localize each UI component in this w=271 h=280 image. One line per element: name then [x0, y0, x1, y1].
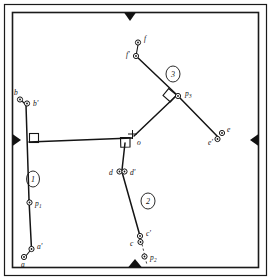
- frame-group: [5, 5, 267, 276]
- label-p2-sub: 2: [154, 257, 157, 263]
- link-2-group: [122, 143, 147, 265]
- joint-f-prime: [133, 53, 138, 58]
- figure-canvas: b b' a a' p 1 d d' c c' p 2 f f' e e' p …: [0, 0, 271, 280]
- bottom-marker-triangle-icon: [128, 259, 142, 268]
- link-badges-group: 1 2 3: [27, 66, 181, 209]
- horizontal-bar-group: [29, 138, 132, 142]
- label-e: e: [227, 125, 231, 134]
- label-p1-sub: 1: [39, 203, 42, 209]
- horizontal-connecting-bar: [29, 138, 132, 142]
- label-c-prime: c': [146, 229, 151, 238]
- label-a-prime: a': [37, 242, 43, 251]
- link-2-main-segment: [122, 172, 140, 236]
- joint-e-prime: [215, 136, 220, 141]
- label-b: b: [14, 88, 18, 97]
- joint-p2: [142, 254, 147, 259]
- label-o: o: [137, 138, 141, 147]
- joint-b-prime: [24, 101, 29, 106]
- joint-a-prime: [29, 246, 34, 251]
- link-1-lower-segment: [29, 200, 32, 249]
- label-c: c: [130, 239, 134, 248]
- point-labels-group: b b' a a' p 1 d d' c c' p 2 f f' e e' p …: [14, 34, 231, 269]
- joint-f: [135, 40, 140, 45]
- label-p3-sub: 3: [189, 93, 192, 99]
- label-d: d: [109, 168, 113, 177]
- joint-c: [138, 239, 143, 244]
- joint-b: [17, 97, 22, 102]
- linkage-diagram-svg: b b' a a' p 1 d d' c c' p 2 f f' e e' p …: [0, 0, 271, 280]
- link-1-upper-segment: [26, 105, 29, 200]
- link-3-badge-label: 3: [170, 70, 175, 79]
- link-2-badge: 2: [141, 193, 155, 209]
- left-marker-triangle-icon: [13, 134, 22, 146]
- joint-d: [117, 169, 122, 174]
- label-d-prime: d': [130, 168, 136, 177]
- frame-inner-rect: [13, 13, 259, 268]
- link-2-badge-label: 2: [146, 197, 150, 206]
- link-1-badge-label: 1: [31, 175, 35, 184]
- label-b-prime: b': [33, 99, 39, 108]
- link-3-badge: 3: [166, 66, 180, 82]
- frame-outer-rect: [5, 5, 267, 276]
- label-a: a: [21, 260, 25, 269]
- joint-markers-group: [17, 40, 224, 260]
- edge-marker-group: [13, 13, 259, 268]
- joint-c-prime: [137, 233, 142, 238]
- link-3-lower-segment: [179, 97, 218, 137]
- label-f-prime: f': [126, 50, 130, 59]
- joint-p1: [27, 200, 32, 205]
- joint-e: [219, 130, 224, 135]
- top-marker-triangle-icon: [124, 13, 136, 22]
- joint-p3: [175, 93, 180, 98]
- label-e-prime: e': [208, 138, 213, 147]
- right-marker-triangle-icon: [250, 134, 259, 146]
- joint-a: [21, 254, 26, 259]
- joint-d-prime: [122, 169, 127, 174]
- label-f: f: [144, 34, 147, 43]
- right-angle-at-p3: [163, 88, 177, 102]
